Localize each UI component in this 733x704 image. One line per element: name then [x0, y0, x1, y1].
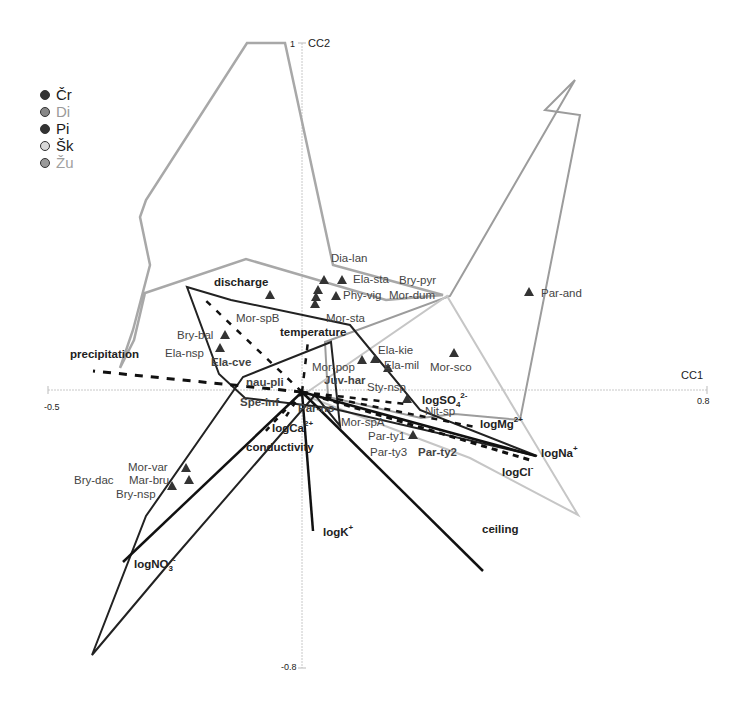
- y-max-tick-label: 1: [290, 39, 295, 49]
- label-logk: logK+: [323, 523, 354, 538]
- legend-dot-icon: [40, 158, 50, 168]
- label-conductivity: conductivity: [246, 441, 314, 453]
- legend-label: Pi: [56, 120, 69, 137]
- vector-temperature: [302, 341, 308, 392]
- label-par-ty1: Par-ty1: [368, 430, 405, 442]
- label-sty-nsp: Sty-nsp: [367, 381, 406, 393]
- y-min-tick-label: -0.8: [281, 662, 297, 672]
- label-bry-dac: Bry-dac: [74, 474, 114, 486]
- label-juv-har: Juv-har: [324, 374, 366, 386]
- legend-item-zu: Žu: [40, 154, 74, 171]
- legend-item-pi: Pi: [40, 120, 74, 137]
- legend-dot-icon: [40, 107, 50, 117]
- marker-phy-vig: [331, 291, 341, 300]
- legend-item-sk: Šk: [40, 137, 74, 154]
- marker-mor-sco: [449, 348, 459, 357]
- marker-ela-nsp: [215, 343, 225, 352]
- label-mor-pop: Mor-pop: [312, 361, 355, 373]
- label-mor-var: Mor-var: [128, 461, 168, 473]
- label-ceiling: ceiling: [482, 523, 518, 535]
- label-discharge: discharge: [214, 276, 268, 288]
- label-par-ty2: Par-ty2: [418, 446, 457, 458]
- legend-label: Šk: [56, 137, 74, 154]
- legend-label: Čr: [56, 86, 72, 103]
- label-ela-nsp: Ela-nsp: [165, 347, 204, 359]
- ordination-biplot: -0.5 0.8 1 -0.8 CC2 CC1: [0, 0, 733, 704]
- label-ela-cve: Ela-cve: [211, 356, 251, 368]
- hull-di: [120, 43, 443, 368]
- label-logmg: logMg2+: [480, 415, 523, 430]
- x-min-tick-label: -0.5: [44, 402, 60, 412]
- label-nau-pli: nau-pli: [246, 376, 284, 388]
- marker-dia-lan-1: [319, 275, 329, 284]
- label-bry-bal: Bry-bal: [177, 329, 213, 341]
- label-ela-mil: Ela-mil: [384, 359, 419, 371]
- label-par-and: Par-and: [541, 287, 582, 299]
- legend-dot-icon: [40, 124, 50, 134]
- legend-item-cr: Čr: [40, 86, 74, 103]
- legend-dot-icon: [40, 90, 50, 100]
- legend-label: Žu: [56, 154, 74, 171]
- label-mor-sta: Mor-sta: [326, 312, 366, 324]
- label-bry-pyr: Bry-pyr: [399, 274, 436, 286]
- label-ela-sta: Ela-sta: [353, 273, 389, 285]
- legend-item-di: Di: [40, 103, 74, 120]
- cc1-axis-label: CC1: [681, 369, 703, 381]
- label-par-no: Par-no: [298, 402, 334, 414]
- marker-bry-bal: [220, 330, 230, 339]
- label-phy-vig: Phy-vig: [343, 289, 381, 301]
- label-logno3: logNO3-: [134, 555, 176, 573]
- label-mor-spa: Mor-spA: [341, 416, 385, 428]
- marker-mar-bru: [184, 475, 194, 484]
- label-nit-sp: Nit-sp: [425, 405, 455, 417]
- marker-ela-sta: [337, 275, 347, 284]
- legend-dot-icon: [40, 141, 50, 151]
- marker-discharge-point: [265, 290, 275, 299]
- marker-dia-lan-2: [313, 285, 323, 294]
- label-mar-bru: Mar-bru: [129, 474, 169, 486]
- label-logna: logNa+: [541, 444, 578, 459]
- label-mor-sco: Mor-sco: [430, 361, 472, 373]
- label-ela-kie: Ela-kie: [378, 344, 413, 356]
- label-par-ty3: Par-ty3: [370, 446, 407, 458]
- legend-label: Di: [56, 103, 70, 120]
- label-bry-nsp: Bry-nsp: [116, 488, 156, 500]
- label-mor-spb: Mor-spB: [236, 312, 280, 324]
- marker-par-and: [524, 287, 534, 296]
- legend: Čr Di Pi Šk Žu: [40, 86, 74, 171]
- label-dia-lan: Dia-lan: [331, 252, 367, 264]
- label-logcl: logCl-: [502, 463, 534, 478]
- cc2-axis-label: CC2: [308, 37, 330, 49]
- vector-ceiling: [302, 392, 483, 571]
- label-spe-inf: Spe-inf: [240, 396, 279, 408]
- label-precipitation: precipitation: [70, 348, 139, 360]
- label-logca: logCa2+: [272, 419, 313, 434]
- label-temperature: temperature: [280, 326, 346, 338]
- x-max-tick-label: 0.8: [697, 396, 710, 406]
- label-mor-dum: Mor-dum: [389, 289, 435, 301]
